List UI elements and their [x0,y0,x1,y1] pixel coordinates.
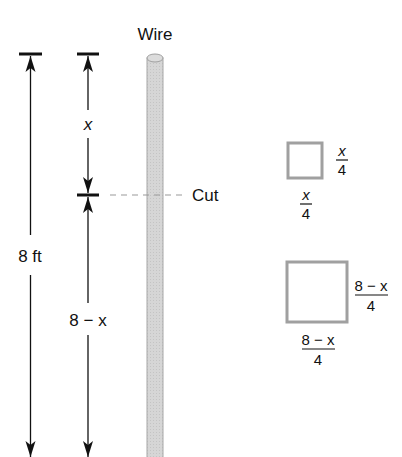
small-square-bottom-fraction: x 4 [300,186,312,222]
top-segment-label: x [83,115,93,134]
svg-text:8 − x: 8 − x [355,277,388,294]
wire [147,54,163,457]
total-length-label: 8 ft [18,247,42,266]
wire-cut-diagram: Wire 8 ft x 8 − x Cut x 4 [0,0,402,457]
svg-text:x: x [337,142,346,159]
cut-label: Cut [192,186,219,205]
large-square [287,262,347,322]
bottom-segment-label: 8 − x [69,311,107,330]
svg-text:4: 4 [314,351,322,368]
large-square-bottom-fraction: 8 − x 4 [302,331,335,368]
small-square-side-fraction: x 4 [336,142,348,178]
svg-text:4: 4 [338,161,346,178]
svg-text:x: x [301,186,310,203]
wire-label: Wire [138,25,173,44]
large-square-side-fraction: 8 − x 4 [355,277,388,314]
svg-text:4: 4 [367,297,375,314]
small-square [288,143,322,178]
svg-text:8 − x: 8 − x [302,331,335,348]
svg-text:4: 4 [302,205,310,222]
